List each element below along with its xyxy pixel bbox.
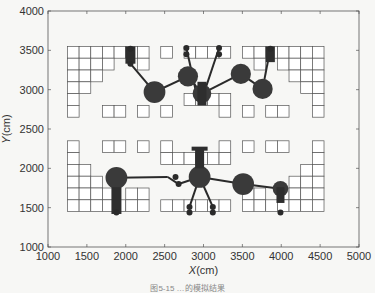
grid-cell (79, 82, 91, 94)
grid-cell (114, 141, 126, 153)
x-tick-label: 3500 (230, 250, 254, 262)
grid-cell (301, 164, 313, 176)
x-tick-label: 2000 (114, 250, 138, 262)
grid-cell (126, 188, 138, 200)
joint-dot (183, 45, 189, 51)
grid-cell (102, 141, 114, 153)
grid-cell (161, 200, 173, 212)
joint-dot (187, 204, 193, 210)
grid-cell (161, 153, 173, 165)
grid-cell (79, 188, 91, 200)
y-tick-label: 1500 (20, 202, 44, 214)
grid-cell (312, 94, 324, 106)
grid-cell (254, 200, 266, 212)
grid-cell (161, 105, 173, 117)
grid-cell (114, 46, 126, 58)
grid-cell (79, 176, 91, 188)
joint-dot (173, 174, 179, 180)
grid-cell (91, 176, 103, 188)
figure-caption: 图5-15 …的模拟结果 (0, 282, 375, 293)
joint-dot (176, 181, 182, 187)
grid-cell (289, 58, 301, 70)
y-tick-label: 3000 (20, 84, 44, 96)
node-circle (106, 167, 128, 189)
y-tick-label: 2000 (20, 162, 44, 174)
grid-cell (161, 141, 173, 153)
grid-cell (137, 188, 149, 200)
grid-cell (79, 200, 91, 212)
joint-dot (127, 61, 133, 67)
joint-dot (127, 46, 133, 52)
grid-cell (137, 46, 149, 58)
x-tick-label: 1500 (75, 250, 99, 262)
x-axis-label: X(cm) (188, 264, 218, 276)
grid-cell (67, 141, 79, 153)
joint-dot (216, 51, 222, 57)
grid-cell (289, 70, 301, 82)
grid-cell (277, 105, 289, 117)
grid-cell (102, 46, 114, 58)
grid-cell (79, 164, 91, 176)
x-tick-label: 3000 (191, 250, 215, 262)
grid-cell (91, 58, 103, 70)
node-circle (231, 64, 251, 84)
grid-cell (102, 105, 114, 117)
grid-cell (219, 141, 231, 153)
grid-cell (312, 153, 324, 165)
grid-cell (312, 82, 324, 94)
grid-cell (254, 188, 266, 200)
grid-cell (67, 94, 79, 106)
grid-cell (137, 105, 149, 117)
grid-cell (277, 46, 289, 58)
grid-cell (312, 176, 324, 188)
grid-cell (312, 70, 324, 82)
grid-cell (184, 153, 196, 165)
x-tick-label: 2500 (152, 250, 176, 262)
joint-dot (210, 204, 216, 210)
grid-cell (67, 70, 79, 82)
node-circle (189, 166, 211, 188)
grid-cell (254, 46, 266, 58)
grid-cell (312, 188, 324, 200)
grid-cell (277, 58, 289, 70)
grid-cell (67, 58, 79, 70)
grid-cell (67, 105, 79, 117)
grid-cell (301, 70, 313, 82)
grid-cell (196, 46, 208, 58)
grid-cell (102, 58, 114, 70)
grid-cell (207, 153, 219, 165)
grid-cell (91, 188, 103, 200)
grid-cell (91, 46, 103, 58)
grid-cell (79, 70, 91, 82)
joint-dot (187, 209, 193, 215)
y-tick-label: 2500 (20, 123, 44, 135)
grid-cell (67, 176, 79, 188)
node-circle (178, 66, 198, 86)
grid-cell (196, 200, 208, 212)
y-tick-label: 3500 (20, 44, 44, 56)
grid-cell (219, 105, 231, 117)
grid-cell (67, 164, 79, 176)
grid-cell (126, 200, 138, 212)
grid-cell (289, 188, 301, 200)
grid-cell (301, 58, 313, 70)
grid-cell (277, 141, 289, 153)
grid-cell (172, 200, 184, 212)
grid-cell (266, 141, 278, 153)
grid-cell (312, 105, 324, 117)
y-axis: 1000150020002500300035004000 (20, 5, 359, 253)
grid-cell (312, 141, 324, 153)
grid-cell (301, 82, 313, 94)
grid-cell (219, 153, 231, 165)
grid-cell (266, 105, 278, 117)
grid-cell (289, 46, 301, 58)
joint-dot (183, 51, 189, 57)
grid-cell (67, 188, 79, 200)
joint-dot (210, 209, 216, 215)
grid-cell (312, 164, 324, 176)
node-stem (197, 82, 206, 106)
grid-cell (242, 141, 254, 153)
y-axis-label: Y(cm) (0, 114, 12, 143)
grid-cell (312, 200, 324, 212)
joint-dot (216, 45, 222, 51)
